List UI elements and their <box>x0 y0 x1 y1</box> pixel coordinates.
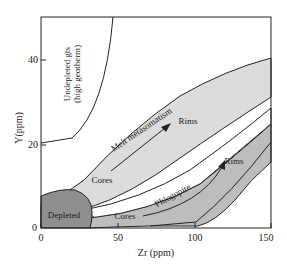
phlog-cores-label: Cores <box>115 211 136 221</box>
x-tick-0: 0 <box>39 232 44 243</box>
x-tick-150: 150 <box>259 232 274 243</box>
y-tick-40: 40 <box>28 54 38 65</box>
phlog-rims-label: Rims <box>224 156 244 166</box>
x-tick-50: 50 <box>113 232 123 243</box>
melt-cores-label: Cores <box>92 175 113 185</box>
undepleted-label-line2: (high geotherm) <box>72 45 82 103</box>
x-tick-100: 100 <box>188 232 203 243</box>
y-tick-0: 0 <box>32 222 37 233</box>
trace-element-diagram: 0 50 100 150 Zr (ppm) 0 20 40 Y(ppm) Und… <box>0 0 287 269</box>
y-axis-label: Y(ppm) <box>13 112 25 144</box>
undepleted-label-line1: Undepleted gts <box>62 46 72 101</box>
melt-rims-label: Rims <box>178 116 198 126</box>
x-axis-label: Zr (ppm) <box>138 247 174 259</box>
depleted-label: Depleted <box>48 210 81 220</box>
depleted-field <box>41 190 92 228</box>
y-tick-20: 20 <box>28 139 38 150</box>
